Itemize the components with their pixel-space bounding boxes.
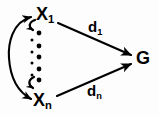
node-xn-base: X [33, 90, 45, 110]
vertical-ellipsis [37, 31, 42, 83]
node-x1-subscript: 1 [48, 13, 54, 25]
node-label-g: G [136, 49, 150, 67]
edge-d1-base: d [88, 18, 97, 35]
inner-hook-arrow-top [30, 20, 35, 30]
node-label-x1: X1 [36, 5, 54, 23]
edge-dn-subscript: n [96, 91, 102, 101]
node-x1-base: X [36, 4, 48, 24]
edge-label-d1: d1 [88, 19, 102, 34]
node-g-base: G [136, 48, 150, 68]
edge-label-dn: dn [87, 83, 102, 98]
node-label-xn: Xn [33, 91, 52, 109]
edge-dn-base: d [87, 82, 96, 99]
node-xn-subscript: n [45, 99, 52, 111]
curved-double-arrow-x1-xn [9, 17, 31, 99]
vertical-ellipsis-secondary [31, 39, 34, 77]
diagram-canvas: X1 Xn G d1 dn [0, 0, 159, 116]
inner-hook-arrow-bottom [29, 77, 34, 88]
edge-d1-subscript: 1 [97, 27, 102, 37]
